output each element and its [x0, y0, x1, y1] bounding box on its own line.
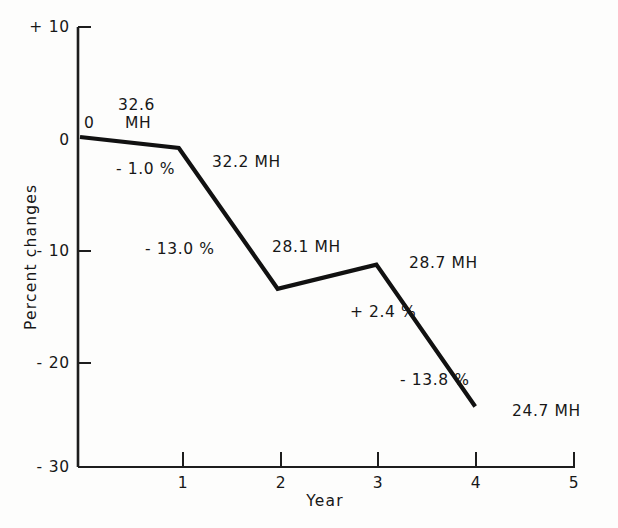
mh-label-year0-line1: 32.6: [118, 96, 155, 115]
mh-label-year1: 32.2 MH: [212, 153, 281, 172]
mh-label-year3: 28.7 MH: [409, 254, 478, 273]
x-tick-label-4: 4: [471, 474, 482, 492]
y-tick-label-minus30: - 30: [37, 458, 70, 476]
y-tick-label-zero: 0: [59, 131, 70, 149]
mh-label-year0-line2: MH: [125, 114, 151, 133]
pct-label-year2-3: + 2.4 %: [350, 303, 416, 322]
y-tick-label-minus10: - 10: [37, 242, 70, 260]
chart-figure: + 10 0 - 10 - 20 - 30 1 2 3 4 5 Percent …: [0, 0, 618, 528]
x-tick-label-2: 2: [276, 474, 287, 492]
mh-label-year2: 28.1 MH: [272, 238, 341, 257]
x-tick-label-5: 5: [569, 474, 580, 492]
pct-label-year3-4: - 13.8 %: [400, 371, 470, 390]
x-axis-title: Year: [306, 492, 344, 510]
x-tick-label-1: 1: [178, 474, 189, 492]
y-tick-label-minus20: - 20: [37, 354, 70, 372]
y-axis-title: Percent changes: [22, 184, 40, 330]
y-tick-label-plus10: + 10: [29, 18, 70, 36]
chart-plot-area: [0, 0, 618, 528]
origin-zero-label: 0: [84, 114, 94, 133]
pct-label-year1-2: - 13.0 %: [145, 240, 215, 259]
x-tick-label-3: 3: [373, 474, 384, 492]
pct-label-year0-1: - 1.0 %: [116, 160, 175, 179]
mh-label-year4: 24.7 MH: [512, 402, 581, 421]
